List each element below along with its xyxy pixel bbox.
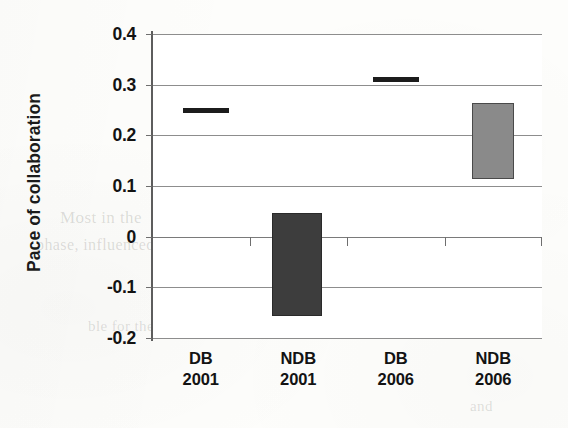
x-category-line1: DB [384,349,408,367]
y-axis-tick-labels: 0.4 0.3 0.2 0.1 0 -0.1 -0.2 [52,34,144,338]
chart-figure: Pace of collaboration 0.4 0.3 0.2 0.1 0 … [0,0,568,428]
y-tick-label: 0.3 [113,74,136,95]
y-tick-label: -0.2 [107,328,136,349]
x-category-ndb-2006: NDB 2006 [445,348,543,390]
bar-ndb-2001[interactable] [272,213,322,316]
x-category-line2: 2001 [250,369,348,390]
gridline-neg0.1 [152,287,542,288]
y-tick-label: -0.1 [107,277,136,298]
x-tick-mark [541,237,542,246]
x-category-line2: 2006 [347,369,445,390]
gridline-neg0.2 [152,338,542,339]
x-tick-mark [250,237,251,246]
y-tick-label: 0.1 [113,176,136,197]
x-category-db-2006: DB 2006 [347,348,445,390]
x-category-line1: DB [189,349,213,367]
y-tick-mark [146,287,152,288]
x-axis-category-labels: DB 2001 NDB 2001 DB 2006 NDB 2006 [152,348,542,410]
bar-db-2006[interactable] [373,77,419,82]
gridline-0.1 [152,186,542,187]
y-tick-mark [146,85,152,86]
y-tick-mark [146,34,152,35]
x-category-line1: NDB [476,349,511,367]
plot-area [152,34,542,338]
bar-db-2001[interactable] [183,108,229,113]
x-category-line2: 2001 [152,369,250,390]
x-tick-mark [347,237,348,246]
x-tick-mark [445,237,446,246]
y-tick-mark [146,237,152,238]
y-tick-mark [146,135,152,136]
gridline-0.3 [152,85,542,86]
y-tick-mark [146,338,152,339]
gridline-0.4 [152,34,542,35]
y-tick-label: 0.4 [113,24,136,45]
y-axis-title: Pace of collaboration [24,53,45,313]
x-category-db-2001: DB 2001 [152,348,250,390]
y-tick-label: 0.2 [113,125,136,146]
x-category-line1: NDB [281,349,316,367]
x-category-line2: 2006 [445,369,543,390]
y-tick-mark [146,186,152,187]
y-tick-label: 0 [127,226,136,247]
bar-ndb-2006[interactable] [472,103,514,179]
x-category-ndb-2001: NDB 2001 [250,348,348,390]
